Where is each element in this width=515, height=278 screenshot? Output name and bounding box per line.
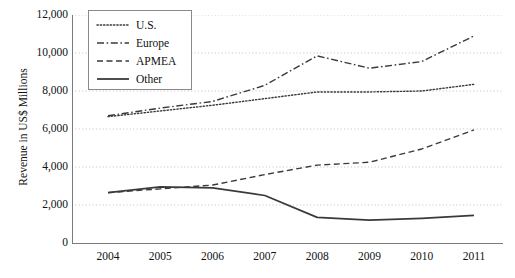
legend-swatch-solid-icon [96,74,130,84]
x-tick-label: 2007 [243,250,287,262]
x-tick-label: 2010 [400,250,444,262]
y-axis-line [72,15,73,244]
legend-swatch-dash-dot-icon [96,38,130,48]
y-tick-label: 2,000 [16,199,68,211]
legend-item-u-s[interactable]: U.S. [89,16,191,34]
y-tick-label: 10,000 [16,47,68,59]
legend-swatch-dotted-icon [96,20,130,30]
x-tick-label: 2004 [86,250,130,262]
x-tick-label: 2005 [138,250,182,262]
y-tick-label: 0 [16,237,68,249]
y-tick-label: 4,000 [16,161,68,173]
y-tick-label: 12,000 [16,9,68,21]
legend-label: Europe [136,37,169,49]
x-tick-label: 2011 [452,250,496,262]
legend-label: U.S. [136,19,156,31]
y-tick-label: 6,000 [16,123,68,135]
legend-item-apmea[interactable]: APMEA [89,52,191,70]
x-tick-label: 2009 [347,250,391,262]
legend-label: Other [136,73,162,85]
legend-item-other[interactable]: Other [89,70,191,88]
x-axis-tick-labels: 20042005200620072008200920102011 [0,250,515,268]
legend-swatch-dashed-icon [96,56,130,66]
y-axis-tick-labels: 12,00010,0008,0006,0004,0002,0000 [12,0,68,278]
line-chart: Revenue in US$ Millions 12,00010,0008,00… [0,0,515,278]
x-tick-label: 2006 [191,250,235,262]
x-tick-label: 2008 [295,250,339,262]
x-axis-line [72,243,503,244]
y-tick-label: 8,000 [16,85,68,97]
legend-item-europe[interactable]: Europe [89,34,191,52]
chart-legend: U.S.EuropeAPMEAOther [88,10,192,90]
legend-label: APMEA [136,55,176,67]
series-line-other [108,187,474,220]
series-line-apmea [108,130,474,193]
